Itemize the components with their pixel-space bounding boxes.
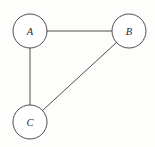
graph-figure: A B C	[0, 0, 155, 147]
node-a-label: A	[26, 26, 34, 37]
node-c-label: C	[26, 117, 34, 128]
graph-canvas: A B C	[0, 0, 155, 147]
node-b-label: B	[126, 26, 133, 37]
edge-b-c	[43, 43, 117, 111]
